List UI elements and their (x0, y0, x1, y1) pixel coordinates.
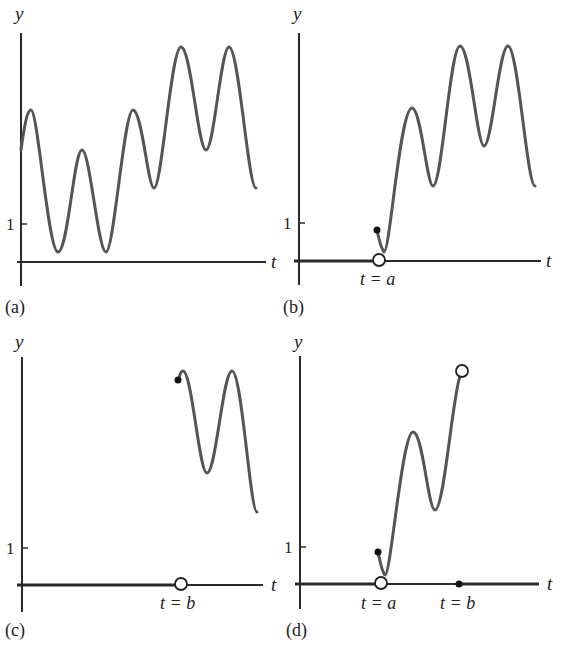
panel-label: (a) (5, 297, 25, 318)
filled-dot-marker-b (456, 581, 463, 588)
panel-d: 1 y t (d) t = a t = b (284, 331, 553, 641)
t-axis-label: t (271, 251, 277, 272)
function-curve (378, 376, 460, 575)
open-circle-marker (373, 254, 385, 266)
open-circle-marker-b (456, 365, 468, 377)
panel-label: (d) (286, 620, 307, 641)
y-axis-label: y (13, 3, 24, 24)
y-axis-label: y (292, 331, 303, 352)
open-circle-marker-a (375, 577, 387, 589)
filled-dot-marker (175, 377, 182, 384)
panel-c: 1 y t (c) t = b (5, 331, 277, 641)
t-axis-label: t (547, 573, 553, 594)
tick-one-label: 1 (284, 538, 293, 557)
y-axis-label: y (291, 3, 302, 24)
function-curve (21, 47, 256, 252)
function-curve (179, 371, 257, 512)
open-circle-marker (175, 578, 187, 590)
t-axis-label: t (546, 250, 552, 271)
function-curve (377, 46, 535, 252)
filled-dot-marker (374, 227, 381, 234)
panel-a: 1 y t (a) (5, 3, 277, 318)
panel-b: 1 y t (b) t = a (283, 3, 552, 318)
tick-one-label: 1 (283, 214, 292, 233)
marker-label-a: t = a (361, 593, 396, 613)
filled-dot-marker-a (375, 549, 382, 556)
y-axis-label: y (13, 331, 24, 352)
tick-one-label: 1 (6, 539, 15, 558)
figure-canvas: 1 y t (a) 1 y t (b) t = a 1 y t (c) t = … (0, 0, 565, 654)
tick-one-label: 1 (6, 215, 15, 234)
t-axis-label: t (271, 574, 277, 595)
marker-label-a: t = a (360, 269, 395, 289)
marker-label-b: t = b (160, 593, 195, 613)
panel-label: (b) (283, 297, 304, 318)
marker-label-b: t = b (440, 593, 475, 613)
panel-label: (c) (5, 620, 25, 641)
